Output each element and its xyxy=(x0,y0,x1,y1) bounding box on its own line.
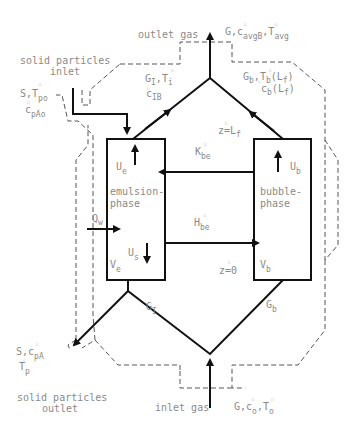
svg-text:☆: ☆ xyxy=(251,395,256,403)
svg-text:☆: ☆ xyxy=(38,80,43,88)
svg-text:z=0: z=0 xyxy=(219,265,237,276)
svg-text:GI: GI xyxy=(146,301,157,316)
svg-text:☆: ☆ xyxy=(170,66,175,74)
svg-text:solid particles: solid particles xyxy=(17,392,107,403)
svg-text:emulsion-: emulsion- xyxy=(110,186,164,197)
gas-from-inlet xyxy=(128,280,283,354)
svg-text:Hbe: Hbe xyxy=(194,217,210,232)
svg-text:inlet gas: inlet gas xyxy=(155,402,209,413)
svg-text:☆: ☆ xyxy=(270,395,275,403)
flow-arrow-GI-top xyxy=(145,110,170,129)
svg-text:Kbe: Kbe xyxy=(195,146,211,161)
flow-arrow-Gb-top xyxy=(250,112,274,131)
svg-text:☆: ☆ xyxy=(203,140,208,148)
svg-text:solid particles: solid particles xyxy=(20,55,110,66)
svg-text:phase: phase xyxy=(260,198,290,209)
svg-text:☆: ☆ xyxy=(274,20,279,28)
svg-text:z=Lf: z=Lf xyxy=(218,125,241,139)
svg-text:outlet gas: outlet gas xyxy=(138,29,198,40)
solids-inlet-pipe xyxy=(73,88,127,133)
svg-text:☆: ☆ xyxy=(243,20,248,28)
reactor-diagram: outlet gas G,cavgB,Tavg ☆ ☆ solid partic… xyxy=(0,0,358,433)
svg-text:S,Tpo: S,Tpo xyxy=(20,88,48,103)
svg-text:phase: phase xyxy=(110,198,140,209)
svg-text:☆: ☆ xyxy=(22,356,27,364)
svg-text:Qw: Qw xyxy=(92,213,103,227)
diagram-canvas: outlet gas G,cavgB,Tavg ☆ ☆ solid partic… xyxy=(0,0,358,433)
svg-text:G,co,To: G,co,To xyxy=(234,401,274,416)
svg-text:S,cpA: S,cpA xyxy=(16,346,44,361)
svg-text:☆: ☆ xyxy=(35,340,40,348)
svg-text:bubble-: bubble- xyxy=(260,186,302,197)
svg-text:cb(Lf): cb(Lf) xyxy=(261,83,295,97)
svg-text:☆: ☆ xyxy=(203,211,208,219)
svg-text:cpAo: cpAo xyxy=(25,104,46,119)
svg-text:G,cavgB,Tavg: G,cavgB,Tavg xyxy=(225,26,289,41)
svg-text:inlet: inlet xyxy=(50,66,80,77)
svg-text:Gb: Gb xyxy=(266,299,277,314)
svg-text:outlet: outlet xyxy=(42,403,78,414)
solids-outlet-pipe xyxy=(74,291,128,345)
